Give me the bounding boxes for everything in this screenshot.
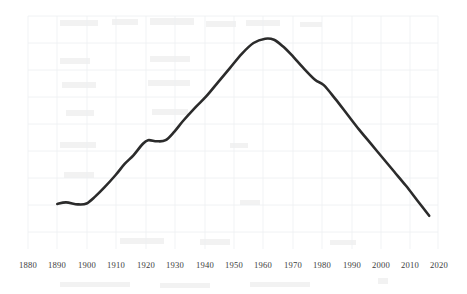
- x-tick-label: 1970: [284, 260, 302, 270]
- line-chart-figure: ​ ​: [0, 0, 467, 294]
- x-tick-label: 1960: [254, 260, 272, 270]
- x-tick-label: 1950: [225, 260, 243, 270]
- x-axis-tick-labels: 1880 1890 1900 1910 1920 1930 1940 1950 …: [19, 260, 448, 270]
- x-tick-label: 1940: [196, 260, 214, 270]
- x-tick-label: 1900: [78, 260, 96, 270]
- chart-container: ​ ​: [0, 0, 467, 294]
- x-tick-label: 2010: [401, 260, 419, 270]
- x-tick-label: 1980: [313, 260, 331, 270]
- x-tick-label: 1910: [107, 260, 125, 270]
- x-tick-label: 1990: [343, 260, 361, 270]
- x-tick-label: 2020: [430, 260, 448, 270]
- x-tick-label: 1920: [137, 260, 155, 270]
- x-tick-label: 2000: [372, 260, 390, 270]
- x-tick-label: 1890: [48, 260, 66, 270]
- x-tick-label: 1930: [166, 260, 184, 270]
- x-tick-label: 1880: [19, 260, 37, 270]
